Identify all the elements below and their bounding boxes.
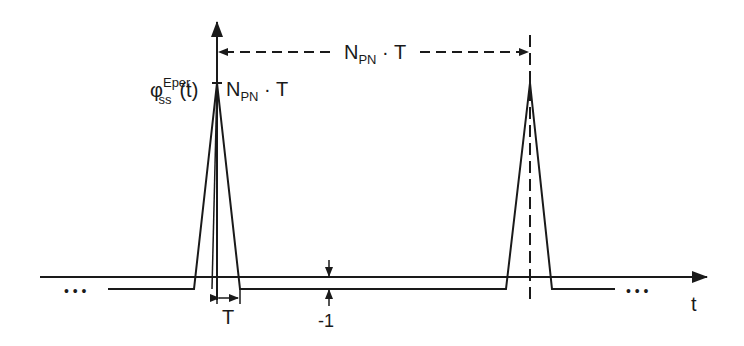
ellipsis-right: • • • xyxy=(626,283,649,299)
ellipsis-left: • • • xyxy=(64,283,87,299)
period-label: NPN · T xyxy=(344,41,406,67)
pulse-width-label: T xyxy=(222,306,234,328)
autocorrelation-diagram: φEperss(t) NPN · T NPN · T T -1 t • • • … xyxy=(0,0,744,346)
function-label: φEperss(t) xyxy=(150,75,198,107)
autocorrelation-waveform xyxy=(108,83,615,289)
peak-label: NPN · T xyxy=(226,78,288,104)
offset-label: -1 xyxy=(318,311,334,331)
x-axis-label: t xyxy=(691,293,697,315)
